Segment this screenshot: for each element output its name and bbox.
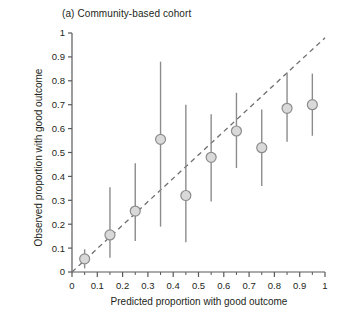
x-tick-label: 1 <box>322 280 327 291</box>
data-point-marker <box>282 103 292 113</box>
data-point-marker <box>257 143 267 153</box>
error-bars <box>85 62 313 269</box>
calibration-plot-figure: (a) Community-based cohort Observed prop… <box>0 0 344 321</box>
y-tick-label: 0.9 <box>52 51 65 62</box>
x-tick-label: 0.6 <box>217 280 230 291</box>
data-point-marker <box>105 230 115 240</box>
y-tick-label: 0 <box>60 266 65 277</box>
data-point-marker <box>80 254 90 264</box>
data-point-marker <box>231 126 241 136</box>
y-tick-label: 0.3 <box>52 195 65 206</box>
data-point-marker <box>206 152 216 162</box>
data-point-marker <box>307 100 317 110</box>
x-tick-label: 0.8 <box>268 280 281 291</box>
x-tick-label: 0 <box>69 280 74 291</box>
x-tick-label: 0.2 <box>116 280 129 291</box>
tick-labels: 00.10.20.30.40.50.60.70.80.9100.10.20.30… <box>52 27 328 291</box>
data-points <box>80 100 318 264</box>
x-tick-label: 0.1 <box>91 280 104 291</box>
x-tick-label: 0.4 <box>167 280 180 291</box>
y-tick-label: 0.8 <box>52 75 65 86</box>
y-tick-label: 0.2 <box>52 219 65 230</box>
x-tick-label: 0.9 <box>293 280 306 291</box>
y-tick-label: 0.7 <box>52 99 65 110</box>
y-tick-label: 0.1 <box>52 243 65 254</box>
x-tick-label: 0.7 <box>242 280 255 291</box>
y-tick-label: 0.4 <box>52 171 65 182</box>
plot-canvas: 00.10.20.30.40.50.60.70.80.9100.10.20.30… <box>0 0 344 321</box>
y-tick-label: 0.5 <box>52 147 65 158</box>
x-tick-label: 0.5 <box>192 280 205 291</box>
y-tick-label: 1 <box>60 27 65 38</box>
y-tick-label: 0.6 <box>52 123 65 134</box>
data-point-marker <box>181 191 191 201</box>
data-point-marker <box>130 206 140 216</box>
data-point-marker <box>156 134 166 144</box>
x-tick-label: 0.3 <box>141 280 154 291</box>
